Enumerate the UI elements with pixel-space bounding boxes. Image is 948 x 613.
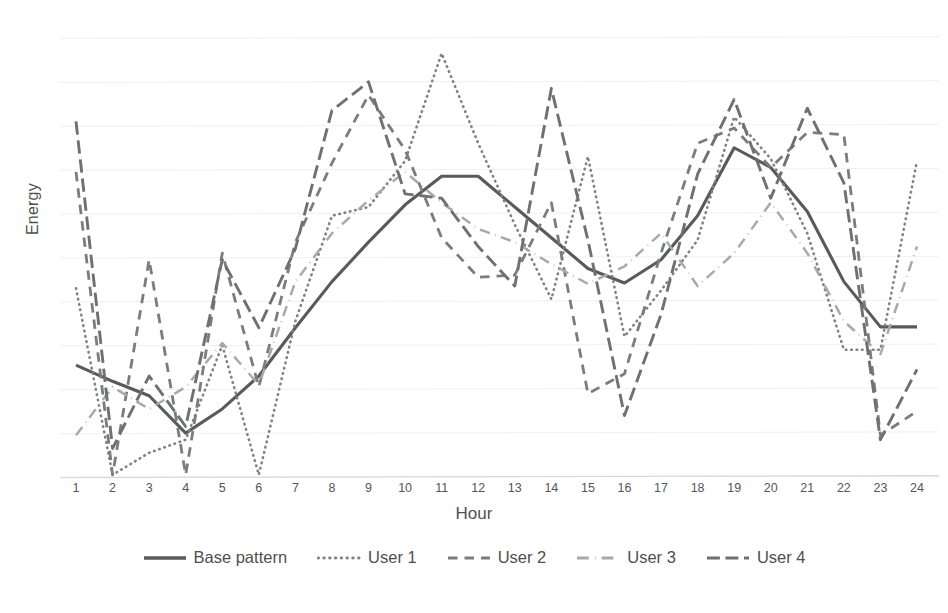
- y-axis-title: Energy: [24, 183, 42, 235]
- x-tick-label: 12: [464, 481, 492, 495]
- x-tick-label: 2: [99, 481, 127, 495]
- x-tick-label: 5: [208, 481, 236, 495]
- gridline: [60, 37, 939, 39]
- gridline: [60, 300, 939, 302]
- x-tick-label: 4: [172, 481, 200, 495]
- x-tick-label: 14: [537, 481, 565, 495]
- x-tick-label: 24: [903, 481, 931, 495]
- x-tick-label: 19: [720, 481, 748, 495]
- legend-item-user-4[interactable]: User 4: [706, 548, 806, 567]
- gridlines: [60, 37, 939, 478]
- legend-label: Base pattern: [194, 548, 288, 567]
- legend-label: User 2: [498, 548, 547, 567]
- gridline: [60, 169, 939, 171]
- x-tick-label: 7: [281, 481, 309, 495]
- legend-label: User 4: [757, 548, 806, 567]
- gridline: [60, 388, 939, 390]
- x-tick-label: 6: [245, 481, 273, 495]
- legend-item-base-pattern[interactable]: Base pattern: [143, 548, 288, 567]
- x-tick-label: 17: [647, 481, 675, 495]
- x-tick-label: 11: [428, 481, 456, 495]
- x-axis-line: [60, 476, 939, 478]
- series-line-user-2: [76, 95, 917, 475]
- x-tick-label: 20: [757, 481, 785, 495]
- x-tick-label: 13: [501, 481, 529, 495]
- x-tick-label: 15: [574, 481, 602, 495]
- gridline: [60, 256, 939, 258]
- x-tick-label: 9: [355, 481, 383, 495]
- x-tick-label: 1: [62, 481, 90, 495]
- axis-baseline: [60, 476, 939, 478]
- x-tick-label: 10: [391, 481, 419, 495]
- legend-item-user-3[interactable]: User 3: [576, 548, 676, 567]
- x-axis-title: Hour: [0, 504, 948, 524]
- series-line-user-4: [76, 82, 917, 449]
- energy-hour-line-chart: Energy 123456789101112131415161718192021…: [0, 0, 948, 613]
- series-lines: [76, 53, 917, 474]
- legend-label: User 1: [368, 548, 417, 567]
- legend-swatch-solid-icon: [143, 551, 187, 565]
- legend-swatch-dashdot-icon: [576, 551, 620, 565]
- x-tick-label: 22: [830, 481, 858, 495]
- x-tick-label: 23: [866, 481, 894, 495]
- x-tick-label: 18: [684, 481, 712, 495]
- x-tick-label: 8: [318, 481, 346, 495]
- x-axis-tick-labels: 123456789101112131415161718192021222324: [0, 481, 948, 501]
- x-tick-label: 16: [610, 481, 638, 495]
- legend-item-user-1[interactable]: User 1: [317, 548, 417, 567]
- gridline: [60, 81, 939, 83]
- legend-swatch-dotted-icon: [317, 551, 361, 565]
- legend-swatch-dashed-icon: [447, 551, 491, 565]
- series-line-base-pattern: [76, 148, 917, 433]
- gridline: [60, 125, 939, 127]
- x-tick-label: 21: [793, 481, 821, 495]
- legend-item-user-2[interactable]: User 2: [447, 548, 547, 567]
- legend-label: User 3: [627, 548, 676, 567]
- x-tick-label: 3: [135, 481, 163, 495]
- chart-legend: Base patternUser 1User 2User 3User 4: [0, 548, 948, 567]
- series-line-user-1: [76, 53, 917, 474]
- gridline: [60, 344, 939, 346]
- legend-swatch-longdash-icon: [706, 551, 750, 565]
